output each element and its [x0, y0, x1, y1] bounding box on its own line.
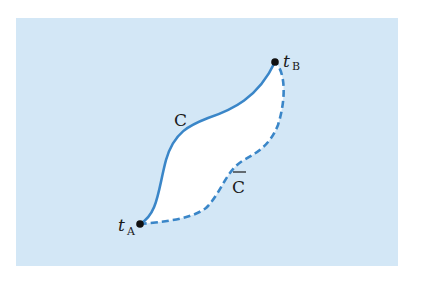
svg-text:t: t [118, 215, 125, 235]
label-c: C [174, 110, 187, 130]
path-diagram: C C t A t B [0, 0, 424, 286]
svg-text:B: B [292, 60, 300, 73]
svg-text:C: C [232, 177, 245, 197]
point-a-dot [136, 220, 144, 228]
svg-text:A: A [126, 225, 136, 238]
svg-text:t: t [283, 51, 290, 71]
label-c-bar: C [232, 172, 246, 197]
point-b-dot [271, 58, 279, 66]
label-t-a: t A [118, 215, 136, 238]
label-t-b: t B [283, 51, 300, 73]
